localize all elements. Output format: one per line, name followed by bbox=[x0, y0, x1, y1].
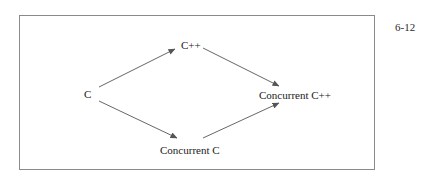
edge-c-to-concurrent-c bbox=[99, 101, 177, 138]
node-concurrent-c: Concurrent C bbox=[160, 144, 220, 156]
node-concurrent-cpp: Concurrent C++ bbox=[259, 89, 331, 101]
node-c: C bbox=[84, 88, 91, 100]
edge-cpp-to-concurrent-cpp bbox=[203, 48, 279, 86]
edge-concurrent-c-to-concurrent-cpp bbox=[203, 103, 279, 138]
edge-c-to-cpp bbox=[99, 49, 175, 87]
node-cpp: C++ bbox=[181, 39, 201, 51]
